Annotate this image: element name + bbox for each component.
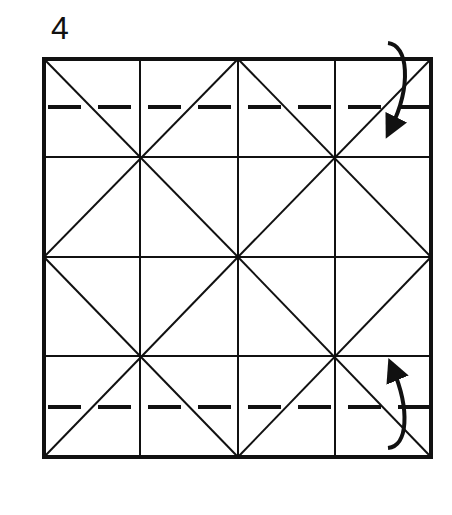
- fold-down-arrow: [388, 43, 405, 128]
- origami-diagram: [0, 0, 452, 515]
- fold-up-arrow: [388, 369, 404, 448]
